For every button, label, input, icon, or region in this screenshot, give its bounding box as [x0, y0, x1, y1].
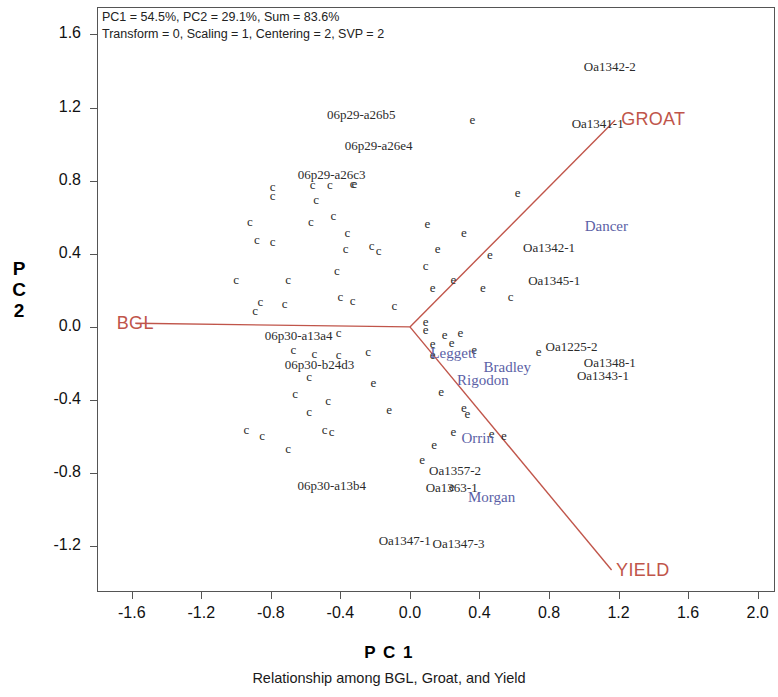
data-point-e: e	[423, 322, 429, 335]
vector-label: GROAT	[621, 112, 685, 126]
data-point-c: c	[337, 289, 343, 302]
data-point-c: c	[291, 342, 297, 355]
x-tick-mark	[410, 592, 411, 599]
x-tick-mark	[479, 592, 480, 599]
data-point-c: c	[343, 242, 349, 255]
data-point-c: c	[244, 423, 250, 436]
y-tick-label: 0.0	[29, 317, 81, 335]
data-point-e: e	[457, 326, 463, 339]
y-tick-mark	[90, 108, 97, 109]
genotype-label: 06p30-a13b4	[297, 479, 366, 493]
figure-caption: Relationship among BGL, Groat, and Yield	[0, 670, 778, 686]
x-tick-label: 1.2	[593, 604, 645, 622]
data-point-e: e	[450, 425, 456, 438]
data-point-c: c	[350, 293, 356, 306]
data-point-e: e	[501, 428, 507, 441]
data-point-e: e	[424, 216, 430, 229]
data-point-e: e	[450, 273, 456, 286]
y-tick-mark	[90, 181, 97, 182]
x-tick-mark	[132, 592, 133, 599]
x-axis-title: P C 1	[0, 643, 778, 663]
genotype-label: Oa1341-1	[572, 117, 624, 131]
y-tick-mark	[90, 34, 97, 35]
data-point-c: c	[285, 441, 291, 454]
y-tick-mark	[90, 473, 97, 474]
plot-annotation: PC1 = 54.5%, PC2 = 29.1%, Sum = 83.6% Tr…	[102, 9, 384, 42]
genotype-label: Oa1357-2	[429, 464, 481, 478]
genotype-label: 06p29-a26e4	[345, 139, 413, 153]
data-point-c: c	[423, 258, 429, 271]
data-point-c: c	[247, 214, 253, 227]
genotype-label: Oa1342-2	[584, 60, 636, 74]
y-tick-mark	[90, 546, 97, 547]
genotype-label: 06p30-b24d3	[285, 358, 354, 372]
genotype-label: Oa1225-2	[546, 340, 598, 354]
data-point-c: c	[329, 425, 335, 438]
y-tick-label: -0.8	[29, 463, 81, 481]
data-point-c: c	[325, 394, 331, 407]
genotype-label: Oa1347-1	[379, 534, 431, 548]
y-tick-label: -0.4	[29, 390, 81, 408]
y-tick-mark	[90, 327, 97, 328]
y-axis-title-char-2: 2	[8, 300, 30, 321]
data-point-c: c	[270, 235, 276, 248]
x-tick-mark	[688, 592, 689, 599]
variety-label: Rigodon	[457, 373, 509, 387]
genotype-label: Oa1347-3	[433, 537, 485, 551]
data-point-e: e	[386, 403, 392, 416]
x-tick-label: 2.0	[732, 604, 778, 622]
x-tick-label: -1.2	[175, 604, 227, 622]
y-tick-label: -1.2	[29, 536, 81, 554]
x-tick-label: 0.0	[384, 604, 436, 622]
vector-label: BGL	[117, 316, 154, 330]
data-point-e: e	[487, 247, 493, 260]
data-point-c: c	[254, 233, 260, 246]
x-tick-mark	[549, 592, 550, 599]
data-point-c: c	[285, 273, 291, 286]
y-axis-title-char-p: P	[8, 258, 30, 279]
genotype-label: Oa1345-1	[528, 274, 580, 288]
data-point-c: c	[292, 386, 298, 399]
y-tick-mark	[90, 254, 97, 255]
data-point-c: c	[308, 214, 314, 227]
figure-root: PC1 = 54.5%, PC2 = 29.1%, Sum = 83.6% Tr…	[0, 0, 778, 697]
variety-label: Morgan	[468, 490, 515, 504]
data-point-c: c	[391, 298, 397, 311]
data-point-c: c	[282, 297, 288, 310]
data-point-e: e	[430, 280, 436, 293]
variety-label: Leggett	[430, 346, 476, 360]
y-tick-label: 0.8	[29, 171, 81, 189]
genotype-label: 06p29-a26c3	[298, 168, 366, 182]
plot-frame	[97, 7, 775, 592]
data-point-c: c	[369, 238, 375, 251]
y-axis-title-char-c: C	[8, 279, 30, 300]
variety-label: Orrin	[461, 431, 494, 445]
annotation-line-variance: PC1 = 54.5%, PC2 = 29.1%, Sum = 83.6%	[102, 9, 384, 26]
x-tick-label: -1.6	[106, 604, 158, 622]
data-point-c: c	[313, 192, 319, 205]
data-point-c: c	[270, 189, 276, 202]
data-point-e: e	[461, 225, 467, 238]
data-point-c: c	[334, 264, 340, 277]
data-point-e: e	[435, 242, 441, 255]
data-point-c: c	[508, 289, 514, 302]
x-tick-mark	[201, 592, 202, 599]
genotype-label: 06p29-a26b5	[327, 108, 396, 122]
data-point-c: c	[331, 209, 337, 222]
data-point-c: c	[322, 423, 328, 436]
data-point-e: e	[515, 185, 521, 198]
y-tick-mark	[90, 400, 97, 401]
data-point-c: c	[376, 244, 382, 257]
data-point-e: e	[480, 280, 486, 293]
genotype-label: Oa1342-1	[523, 241, 575, 255]
data-point-e: e	[536, 344, 542, 357]
x-tick-label: 0.4	[453, 604, 505, 622]
data-point-c: c	[344, 225, 350, 238]
x-tick-label: -0.4	[314, 604, 366, 622]
data-point-e: e	[431, 437, 437, 450]
x-tick-mark	[271, 592, 272, 599]
x-tick-label: 0.8	[523, 604, 575, 622]
genotype-label: Oa1343-1	[577, 369, 629, 383]
genotype-label: 06p30-a13a4	[265, 329, 333, 343]
y-axis-title: P C 2	[8, 258, 30, 321]
